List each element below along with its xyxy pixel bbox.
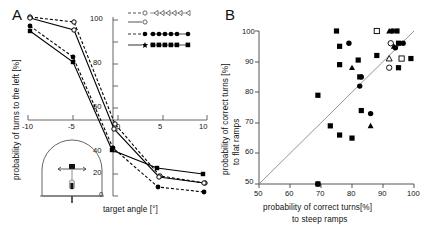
figure-root: A probability of turns to the left [%] t… xyxy=(0,0,430,235)
legend-entry-3 xyxy=(128,42,190,48)
panel-b: B probability of correct turns [%] to fl… xyxy=(215,0,430,235)
scatter-point xyxy=(337,44,342,49)
scatter-point xyxy=(349,136,354,141)
scatter-point xyxy=(315,93,320,98)
panel-b-plot xyxy=(215,0,430,235)
arena-schematic-inset xyxy=(40,140,104,203)
panel-a-legend xyxy=(128,8,214,54)
scatter-point xyxy=(334,28,339,33)
scatter-point xyxy=(368,111,373,116)
panel-b-points xyxy=(315,28,413,187)
scatter-point xyxy=(349,65,355,70)
scatter-point xyxy=(374,53,379,58)
panel-a: A probability of turns to the left [%] t… xyxy=(0,0,215,235)
scatter-point xyxy=(328,123,333,128)
legend-entry-1 xyxy=(128,20,147,24)
identity-line xyxy=(259,31,414,184)
scatter-point xyxy=(400,41,405,46)
scatter-point xyxy=(388,41,393,46)
scatter-point xyxy=(368,123,374,128)
scatter-point xyxy=(390,28,395,33)
scatter-point xyxy=(396,65,401,70)
scatter-point xyxy=(356,57,361,62)
scatter-point xyxy=(396,41,401,46)
scatter-point xyxy=(394,28,399,33)
scatter-point xyxy=(386,56,392,61)
scatter-point xyxy=(315,181,320,186)
scatter-point xyxy=(359,108,364,113)
scatter-point xyxy=(346,41,351,46)
scatter-point xyxy=(408,56,413,61)
scatter-point xyxy=(359,74,364,79)
legend-entry-2 xyxy=(128,32,190,37)
scatter-point xyxy=(374,28,379,33)
scatter-point xyxy=(337,132,342,137)
scatter-point xyxy=(357,83,362,88)
legend-entry-0 xyxy=(128,10,190,15)
scatter-point xyxy=(399,56,404,61)
scatter-point xyxy=(393,45,398,50)
scatter-point xyxy=(387,65,392,70)
scatter-point xyxy=(337,62,342,67)
